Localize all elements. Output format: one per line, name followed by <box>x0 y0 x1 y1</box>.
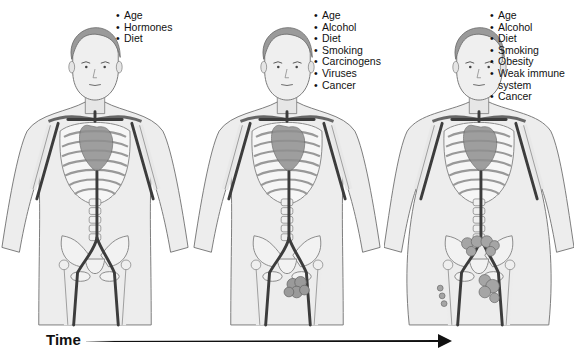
figure-stage-3: Age Alcohol Diet Smoking Obesity Weak im… <box>384 0 574 330</box>
risk-factor: Cancer <box>490 91 572 103</box>
risk-factor-list: Age Hormones Diet <box>116 10 172 45</box>
time-axis-label: Time <box>46 331 81 348</box>
figure-stage-1: Age Hormones Diet <box>0 0 190 330</box>
risk-factor: Diet <box>116 33 172 45</box>
risk-factor: Viruses <box>314 68 381 80</box>
risk-factor: Age <box>490 10 572 22</box>
risk-factor: Weak immune system <box>490 68 572 91</box>
risk-factor: Age <box>314 10 381 22</box>
human-body-illustration <box>0 0 190 330</box>
risk-factor: Age <box>116 10 172 22</box>
risk-factor-list: Age Alcohol Diet Smoking Obesity Weak im… <box>490 10 572 103</box>
time-arrow-icon <box>86 331 456 351</box>
risk-factor-list: Age Alcohol Diet Smoking Carcinogens Vir… <box>314 10 381 91</box>
figure-stage-2: Age Alcohol Diet Smoking Carcinogens Vir… <box>192 0 382 330</box>
risk-factor: Cancer <box>314 80 381 92</box>
